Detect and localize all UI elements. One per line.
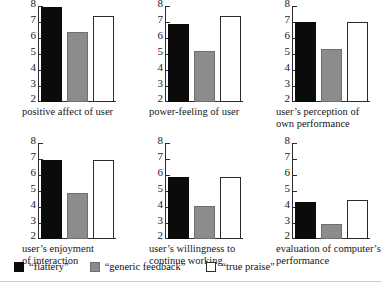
bar-true-praise <box>347 22 368 102</box>
bar-group <box>166 143 243 239</box>
bar-generic-feedback <box>67 32 88 102</box>
bar-true-praise <box>93 16 114 102</box>
bar-flattery <box>295 22 316 102</box>
panel-label-line1: power-feeling of user <box>149 106 261 118</box>
panel-label-line1: evaluation of computer’s <box>276 243 386 255</box>
legend-label: “flattery” <box>29 261 69 272</box>
bar-flattery <box>41 7 62 102</box>
panel-user-enjoyment: 8 7 6 5 4 3 2 user’s enjoyment of intera… <box>0 137 127 274</box>
panel-user-perception: 8 7 6 5 4 3 2 user’s perception of own p… <box>254 0 381 137</box>
bar-group <box>166 6 243 102</box>
bar-flattery <box>168 24 189 102</box>
plot-area: 8 7 6 5 4 3 2 <box>14 137 126 241</box>
bottom-divider <box>0 281 381 282</box>
bar-group <box>39 6 116 102</box>
panel-evaluation-computer: 8 7 6 5 4 3 2 evaluation of computer’s p… <box>254 137 381 274</box>
plot-area: 8 7 6 5 4 3 2 <box>141 0 253 104</box>
bar-generic-feedback <box>67 193 88 239</box>
panel-user-willingness: 8 7 6 5 4 3 2 user’s willingness to cont… <box>127 137 254 274</box>
panel-label-line1: positive affect of user <box>22 106 134 118</box>
legend-label: “generic feedback” <box>105 261 186 272</box>
legend-swatch-gray-icon <box>90 262 100 272</box>
bar-generic-feedback <box>194 206 215 239</box>
legend-item-true-praise: “true praise” <box>206 261 274 272</box>
bar-true-praise <box>220 16 241 102</box>
legend-item-flattery: “flattery” <box>14 261 69 272</box>
legend-swatch-black-icon <box>14 262 24 272</box>
panel-power-feeling: 8 7 6 5 4 3 2 power-feeling of user <box>127 0 254 137</box>
bar-true-praise <box>93 160 114 239</box>
bar-group <box>293 6 370 102</box>
panel-label: user’s perception of own performance <box>276 106 386 129</box>
bar-flattery <box>41 160 62 239</box>
legend-swatch-white-icon <box>206 262 216 272</box>
panel-label: power-feeling of user <box>149 106 261 118</box>
bar-generic-feedback <box>321 224 342 239</box>
plot-area: 8 7 6 5 4 3 2 <box>268 137 380 241</box>
panel-label-line1: user’s enjoyment <box>22 243 134 255</box>
bar-generic-feedback <box>321 49 342 102</box>
bar-true-praise <box>220 177 241 239</box>
chart-legend: “flattery” “generic feedback” “true prai… <box>14 261 296 272</box>
panel-label: positive affect of user <box>22 106 134 118</box>
bar-flattery <box>295 202 316 239</box>
bar-true-praise <box>347 200 368 239</box>
plot-area: 8 7 6 5 4 3 2 <box>14 0 126 104</box>
bar-generic-feedback <box>194 51 215 102</box>
panel-label-line1: user’s willingness to <box>149 243 261 255</box>
panel-positive-affect: 8 7 6 5 4 3 2 positive affect of user <box>0 0 127 137</box>
plot-area: 8 7 6 5 4 3 2 <box>268 0 380 104</box>
panel-grid: 8 7 6 5 4 3 2 positive affect of user <box>0 0 381 274</box>
legend-label: “true praise” <box>221 261 274 272</box>
panel-label-line2: own performance <box>276 118 386 130</box>
bar-group <box>293 143 370 239</box>
bar-flattery <box>168 177 189 239</box>
plot-area: 8 7 6 5 4 3 2 <box>141 137 253 241</box>
legend-item-generic-feedback: “generic feedback” <box>90 261 186 272</box>
panel-label-line1: user’s perception of <box>276 106 386 118</box>
bar-group <box>39 143 116 239</box>
